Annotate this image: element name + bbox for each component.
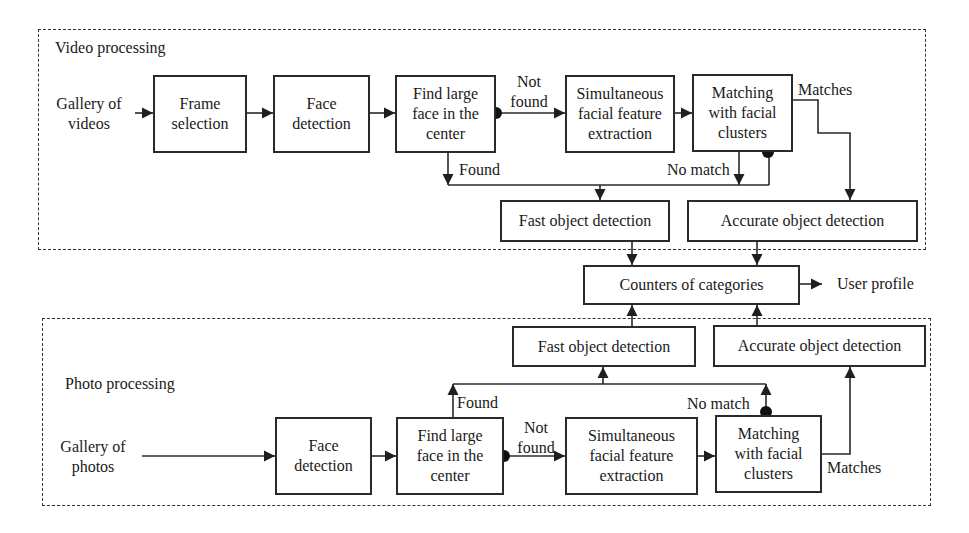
video-face-detection-text: Face detection xyxy=(292,94,351,134)
photo-matching-text: Matching with facial clusters xyxy=(735,424,803,484)
video-fast-detection-text: Fast object detection xyxy=(519,211,651,231)
photo-face-detection-text: Face detection xyxy=(294,436,353,476)
photo-matching-box: Matching with facial clusters xyxy=(715,415,822,493)
photo-find-large-face-box: Find large face in the center xyxy=(396,417,504,495)
user-profile-label: User profile xyxy=(837,274,914,294)
video-no-match-label: No match xyxy=(667,160,730,180)
video-find-large-face-box: Find large face in the center xyxy=(395,75,496,153)
photo-fast-detection-box: Fast object detection xyxy=(512,326,696,367)
photo-no-match-label: No match xyxy=(687,394,750,414)
counters-of-categories-text: Counters of categories xyxy=(620,275,764,295)
photo-accurate-detection-text: Accurate object detection xyxy=(738,336,901,356)
photo-face-detection-box: Face detection xyxy=(275,417,372,495)
counters-of-categories-box: Counters of categories xyxy=(583,265,800,305)
video-processing-title: Video processing xyxy=(55,38,166,58)
photo-feature-extraction-text: Simultaneous facial feature extraction xyxy=(588,426,675,486)
photo-fast-detection-text: Fast object detection xyxy=(538,337,670,357)
frame-selection-box: Frame selection xyxy=(153,75,247,153)
video-found-label: Found xyxy=(459,160,500,180)
video-feature-extraction-text: Simultaneous facial feature extraction xyxy=(576,84,663,144)
photo-accurate-detection-box: Accurate object detection xyxy=(713,325,926,367)
photo-processing-title: Photo processing xyxy=(65,374,175,394)
video-matches-label: Matches xyxy=(798,80,852,100)
video-accurate-detection-text: Accurate object detection xyxy=(721,211,884,231)
video-matching-text: Matching with facial clusters xyxy=(709,83,777,143)
video-matching-box: Matching with facial clusters xyxy=(692,74,793,152)
video-feature-extraction-box: Simultaneous facial feature extraction xyxy=(565,75,675,153)
photo-feature-extraction-box: Simultaneous facial feature extraction xyxy=(565,417,698,495)
video-accurate-detection-box: Accurate object detection xyxy=(687,200,918,242)
photo-found-label: Found xyxy=(457,393,498,413)
photo-not-found-label: Not found xyxy=(508,418,564,458)
gallery-of-photos-label: Gallery of photos xyxy=(48,437,138,477)
photo-matches-label: Matches xyxy=(827,458,881,478)
video-not-found-label: Not found xyxy=(499,72,559,112)
video-find-large-face-text: Find large face in the center xyxy=(412,84,479,144)
gallery-of-videos-label: Gallery of videos xyxy=(44,94,134,134)
frame-selection-text: Frame selection xyxy=(172,94,229,134)
photo-find-large-face-text: Find large face in the center xyxy=(417,426,484,486)
video-fast-detection-box: Fast object detection xyxy=(500,200,670,242)
video-face-detection-box: Face detection xyxy=(273,75,370,153)
